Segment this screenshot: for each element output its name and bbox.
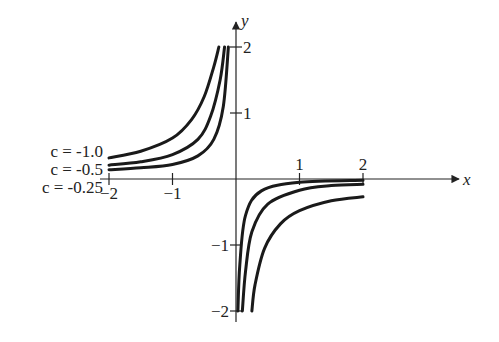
chart-plot: x y −2−112 21−1−2 c = -1.0 c = -0.5 c = …	[0, 0, 499, 342]
legend-label-c-1: c = -1.0	[50, 142, 103, 161]
legend-label-c-05: c = -0.5	[50, 160, 103, 179]
legend-labels: c = -1.0 c = -0.5 c = -0.25	[42, 142, 103, 197]
curve-left-series-0	[109, 47, 219, 158]
x-tick-label: 1	[295, 155, 304, 174]
curve-left-series-2	[109, 47, 228, 170]
x-tick-label: −1	[163, 184, 181, 203]
x-axis: x	[100, 170, 471, 189]
x-axis-label: x	[462, 170, 471, 189]
x-tick-label: 2	[359, 155, 368, 174]
y-axis-label: y	[239, 11, 249, 30]
y-tick-label: 1	[243, 104, 252, 123]
curve-right-series-1	[242, 184, 363, 311]
legend-label-c-025: c = -0.25	[42, 178, 103, 197]
y-tick-label: −1	[211, 236, 229, 255]
y-tick-label: −2	[211, 302, 229, 321]
y-tick-label: 2	[243, 38, 252, 57]
curve-right-series-0	[252, 197, 363, 311]
